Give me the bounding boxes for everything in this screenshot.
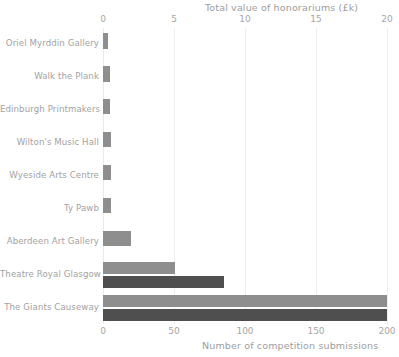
- category-label-8: The Giants Causeway: [0, 302, 99, 312]
- bottom-tick-label: 100: [236, 326, 253, 336]
- top-tick-label: 20: [381, 14, 392, 24]
- bar-honorarium-8: [103, 295, 387, 307]
- top-tick-label: 0: [100, 14, 106, 24]
- bottom-tick-label: 0: [100, 326, 106, 336]
- bar-submissions-7: [103, 276, 224, 288]
- bottom-axis-title: Number of competition submissions: [202, 340, 378, 351]
- top-tick-label: 10: [239, 14, 250, 24]
- bar-submissions-8: [103, 309, 387, 321]
- bar-honorarium-4: [103, 165, 111, 180]
- bar-honorarium-2: [103, 99, 110, 114]
- category-label-7: Theatre Royal Glasgow: [0, 269, 99, 279]
- bottom-tick-label: 200: [378, 326, 395, 336]
- bar-honorarium-1: [103, 66, 110, 81]
- bottom-tick-label: 50: [168, 326, 179, 336]
- bar-honorarium-6: [103, 231, 131, 246]
- bar-chart: Total value of honorariums (£k) Number o…: [0, 0, 399, 357]
- bottom-tick-label: 150: [307, 326, 324, 336]
- bar-honorarium-3: [103, 132, 111, 147]
- bar-honorarium-0: [103, 33, 108, 48]
- plot-area: [103, 28, 387, 324]
- top-axis-title: Total value of honorariums (£k): [205, 2, 358, 13]
- gridline-15: [316, 28, 317, 324]
- category-label-5: Ty Pawb: [0, 203, 99, 213]
- category-label-6: Aberdeen Art Gallery: [0, 236, 99, 246]
- category-label-4: Wyeside Arts Centre: [0, 170, 99, 180]
- category-label-3: Wilton's Music Hall: [0, 137, 99, 147]
- bar-honorarium-7: [103, 262, 175, 274]
- category-label-1: Walk the Plank: [0, 71, 99, 81]
- category-label-2: Edinburgh Printmakers: [0, 104, 99, 114]
- gridline-20: [387, 28, 388, 324]
- top-tick-label: 15: [310, 14, 321, 24]
- gridline-10: [245, 28, 246, 324]
- bar-honorarium-5: [103, 198, 111, 213]
- category-label-0: Oriel Myrddin Gallery: [0, 38, 99, 48]
- top-tick-label: 5: [171, 14, 177, 24]
